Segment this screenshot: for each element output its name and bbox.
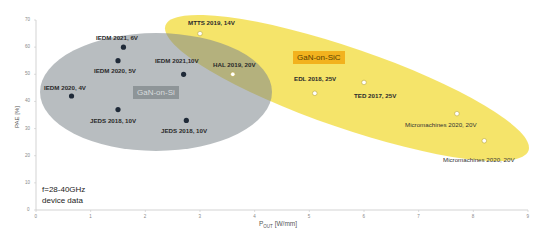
y-tick-label: 40 — [25, 98, 30, 103]
point-label: IEDM 2021, 6V — [96, 34, 138, 41]
x-tick-label: 8 — [472, 214, 475, 219]
gan-on-sic-tag: GaN-on-SiC — [293, 51, 345, 64]
x-tick-label: 2 — [144, 214, 147, 219]
point-label: IEDM 2020, 5V — [94, 67, 136, 74]
y-tick-label: 20 — [25, 153, 30, 158]
x-tick-label: 1 — [89, 214, 92, 219]
data-point-marker — [69, 93, 74, 98]
point-label: HAL 2019, 20V — [213, 61, 256, 68]
data-point-marker — [121, 45, 126, 50]
point-label: IEDM 2020, 4V — [44, 84, 86, 91]
data-point-marker — [455, 111, 460, 116]
point-label: Micromachines 2020, 20V — [443, 156, 515, 163]
x-tick-label: 9 — [527, 214, 530, 219]
y-tick-label: 30 — [25, 126, 30, 131]
data-point-marker — [198, 31, 203, 36]
point-label: JEDS 2018, 10V — [161, 127, 207, 134]
x-tick-label: 0 — [35, 214, 38, 219]
x-axis-label-unit: [W/mm] — [273, 220, 297, 227]
point-label: Micromachines 2020, 20V — [405, 121, 477, 128]
y-tick-label: 0 — [27, 207, 30, 212]
point-label: JEDS 2018, 10V — [90, 117, 136, 124]
y-tick-label: 10 — [25, 180, 30, 185]
data-point-marker — [482, 138, 487, 143]
x-tick-label: 4 — [253, 214, 256, 219]
y-axis-label: PAE [%] — [14, 106, 20, 128]
x-axis-label-sub: OUT — [263, 224, 273, 229]
x-tick-label: 3 — [199, 214, 202, 219]
x-tick-label: 7 — [417, 214, 420, 219]
data-point-marker — [115, 107, 120, 112]
point-label: TED 2017, 25V — [354, 92, 396, 99]
point-label: EDL 2018, 25V — [294, 75, 336, 82]
y-tick-label: 50 — [25, 71, 30, 76]
point-label: MTTS 2019, 14V — [188, 19, 235, 26]
x-tick-label: 5 — [308, 214, 311, 219]
data-point-marker — [115, 58, 120, 63]
y-tick-label: 70 — [25, 17, 30, 22]
data-point-marker — [231, 72, 236, 77]
x-tick-label: 6 — [363, 214, 366, 219]
data-point-marker — [313, 91, 318, 96]
data-point-marker — [184, 118, 189, 123]
data-point-marker — [181, 72, 186, 77]
frequency-note: f=28-40GHz device data — [42, 184, 85, 206]
point-label: IEDM 2021,10V — [155, 57, 199, 64]
frequency-note-line1: f=28-40GHz — [42, 184, 85, 195]
gan-on-si-tag: GaN-on-Si — [133, 86, 179, 99]
x-axis-label: POUT [W/mm] — [259, 220, 297, 229]
y-tick-label: 60 — [25, 44, 30, 49]
frequency-note-line2: device data — [42, 195, 85, 206]
data-point-marker — [362, 80, 367, 85]
